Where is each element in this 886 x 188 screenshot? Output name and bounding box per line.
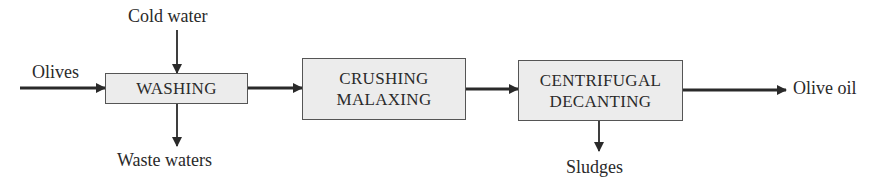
- input-label-cold-water: Cold water: [128, 6, 207, 27]
- output-label-waste-waters: Waste waters: [117, 150, 212, 171]
- output-label-sludges: Sludges: [566, 157, 623, 178]
- process-label: CRUSHING: [339, 68, 428, 89]
- process-label: CENTRIFUGAL: [540, 70, 661, 91]
- process-flow-diagram: WASHING CRUSHING MALAXING CENTRIFUGAL DE…: [0, 0, 886, 188]
- process-box-crushing-malaxing: CRUSHING MALAXING: [302, 58, 466, 120]
- process-box-centrifugal-decanting: CENTRIFUGAL DECANTING: [518, 60, 683, 121]
- process-label: MALAXING: [337, 89, 432, 110]
- process-label: WASHING: [136, 78, 216, 99]
- output-label-olive-oil: Olive oil: [793, 78, 857, 99]
- input-label-olives: Olives: [32, 62, 79, 83]
- process-box-washing: WASHING: [105, 73, 248, 104]
- process-label: DECANTING: [550, 91, 652, 112]
